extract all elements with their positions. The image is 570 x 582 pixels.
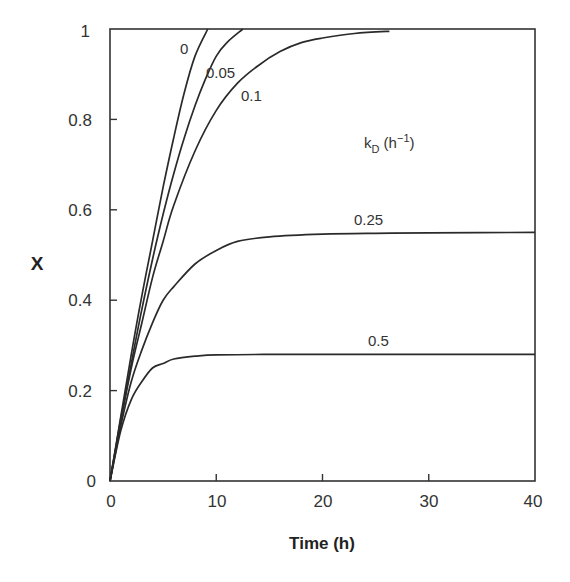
- y-axis-title: X: [31, 253, 44, 274]
- x-tick-label: 10: [208, 492, 227, 511]
- x-axis-title: Time (h): [289, 534, 355, 553]
- y-axis-tick-labels: 0 0.2 0.4 0.6 0.8 1: [68, 22, 96, 491]
- y-tick-label: 1: [81, 22, 90, 41]
- y-tick-label: 0.8: [68, 111, 92, 130]
- curve-label-0: 0: [180, 40, 188, 57]
- kd-legend-title: kD (h−1): [364, 132, 415, 155]
- y-tick-label: 0.6: [68, 201, 92, 220]
- curve-label-0.05: 0.05: [206, 64, 235, 81]
- y-tick-label: 0.4: [68, 291, 92, 310]
- series-line-kd-0.5: [110, 354, 535, 481]
- plot-frame: [110, 29, 535, 481]
- x-axis-ticks: [216, 474, 429, 481]
- curve-label-0.25: 0.25: [354, 211, 383, 228]
- x-tick-label: 40: [524, 492, 543, 511]
- x-tick-label: 20: [314, 492, 333, 511]
- curve-label-0.5: 0.5: [368, 332, 389, 349]
- series-line-kd-0.25: [110, 232, 535, 481]
- curve-label-0.1: 0.1: [241, 87, 262, 104]
- y-tick-label: 0: [87, 472, 96, 491]
- chart-canvas: 0 0.2 0.4 0.6 0.8 1 0 10 20 30 40 Time (…: [0, 0, 570, 582]
- y-axis-ticks: [110, 119, 117, 390]
- x-axis-tick-labels: 0 10 20 30 40: [106, 492, 542, 511]
- series-line-kd-0.05: [110, 29, 243, 481]
- x-tick-label: 0: [106, 492, 115, 511]
- data-series: [110, 29, 535, 481]
- y-tick-label: 0.2: [68, 382, 92, 401]
- x-tick-label: 30: [420, 492, 439, 511]
